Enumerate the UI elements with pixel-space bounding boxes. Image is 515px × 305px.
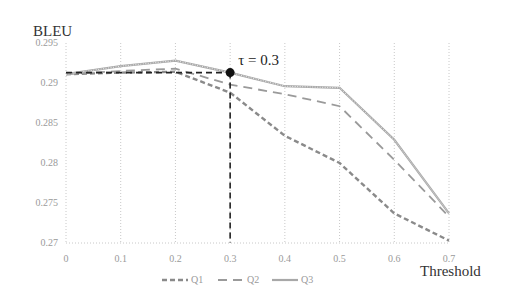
x-tick-label: 0.4 — [279, 253, 292, 264]
y-axis-ticks: 0.2950.290.2850.280.2750.27 — [36, 37, 59, 248]
x-tick-label: 0.2 — [169, 253, 182, 264]
y-axis-title: BLEU — [33, 23, 72, 39]
threshold-label: τ = 0.3 — [238, 52, 279, 68]
x-tick-label: 0.1 — [114, 253, 127, 264]
series-line-q2 — [66, 69, 449, 217]
y-tick-label: 0.275 — [36, 197, 59, 208]
data-series — [66, 61, 449, 241]
x-tick-label: 0 — [64, 253, 69, 264]
threshold-annotation: τ = 0.3 — [66, 52, 279, 243]
line-chart: 0.2950.290.2850.280.2750.27 00.10.20.30.… — [0, 0, 515, 305]
threshold-point-marker — [226, 68, 235, 77]
x-tick-label: 0.5 — [333, 253, 346, 264]
chart-svg: 0.2950.290.2850.280.2750.27 00.10.20.30.… — [0, 0, 515, 305]
x-axis-title: Threshold — [420, 263, 481, 279]
series-line-q3 — [66, 61, 449, 214]
y-tick-label: 0.27 — [41, 237, 59, 248]
y-tick-label: 0.29 — [41, 77, 59, 88]
legend: Q1Q2Q3 — [162, 274, 313, 285]
legend-label-q3: Q3 — [301, 274, 313, 285]
x-tick-label: 0.3 — [224, 253, 237, 264]
y-tick-label: 0.28 — [41, 157, 59, 168]
y-tick-label: 0.285 — [36, 117, 59, 128]
x-tick-label: 0.6 — [388, 253, 401, 264]
x-axis-ticks: 00.10.20.30.40.50.60.7 — [64, 253, 456, 264]
legend-label-q2: Q2 — [247, 274, 259, 285]
legend-label-q1: Q1 — [191, 274, 203, 285]
